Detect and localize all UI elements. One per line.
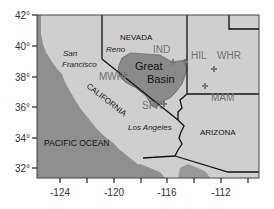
city-label-reno: Reno (106, 45, 126, 54)
great-basin-label: Great (135, 60, 163, 72)
x-axis: -124 -120 -116 -112 (50, 178, 248, 198)
city-label-los-angeles: Los Angeles (128, 123, 172, 132)
city-label-san-francisco: San (63, 49, 78, 58)
site-label-mwk: MWK (99, 71, 124, 82)
ocean-label: PACIFIC OCEAN (44, 138, 110, 148)
y-tick-label: 36° (15, 102, 30, 113)
y-tick-label: 38° (15, 72, 30, 83)
state-label-arizona: ARIZONA (200, 128, 236, 137)
y-tick-label: 34° (15, 133, 30, 144)
site-label-spr: SPR (142, 100, 163, 111)
x-tick-label: -124 (50, 187, 70, 198)
site-label-hil: HIL (191, 50, 207, 61)
site-label-mam: MAM (211, 92, 234, 103)
great-basin-label: Basin (147, 73, 175, 85)
x-tick-label: -116 (157, 187, 177, 198)
state-label-nevada: NEVADA (120, 33, 153, 42)
y-axis: 42° 40° 38° 36° 34° 32° (15, 10, 37, 174)
y-tick-label: 40° (15, 41, 30, 52)
map-figure: 42° 40° 38° 36° 34° 32° -124 -120 -116 -… (0, 0, 274, 209)
city-label-san-francisco: Francisco (62, 60, 97, 69)
y-tick-label: 42° (15, 10, 30, 21)
site-label-whr: WHR (217, 50, 241, 61)
y-tick-label: 32° (15, 163, 30, 174)
site-label-ind: IND (153, 44, 170, 55)
x-tick-label: -120 (104, 187, 124, 198)
x-tick-label: -112 (211, 187, 231, 198)
